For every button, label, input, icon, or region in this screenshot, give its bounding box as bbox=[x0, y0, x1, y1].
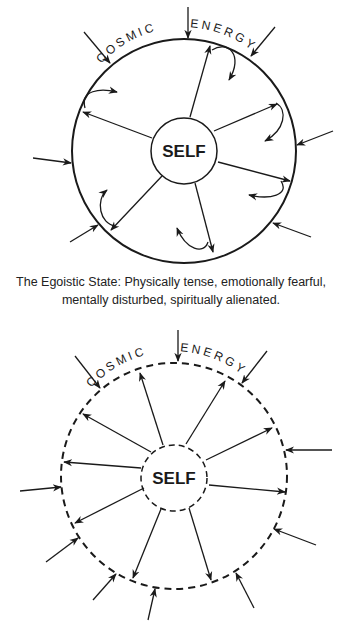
open-state-diagram: COSMIC ENERGY SELF bbox=[20, 330, 332, 620]
self-label: SELF bbox=[162, 142, 205, 161]
cosmic-label: COSMIC bbox=[93, 20, 158, 66]
diagram-canvas: COSMIC ENERGY SELF bbox=[0, 0, 342, 632]
self-label: SELF bbox=[152, 469, 195, 488]
energy-label: ENERGY bbox=[190, 16, 260, 53]
energy-label: ENERGY bbox=[180, 340, 250, 377]
egoistic-state-diagram: COSMIC ENERGY SELF bbox=[33, 7, 333, 263]
cosmic-label: COSMIC bbox=[83, 344, 148, 390]
egoistic-state-caption: The Egoistic State: Physically tense, em… bbox=[0, 273, 342, 309]
caption-line-1: The Egoistic State: Physically tense, em… bbox=[0, 273, 342, 291]
caption-line-2: mentally disturbed, spiritually alienate… bbox=[0, 291, 342, 309]
incoming-energy-arrows bbox=[33, 7, 333, 242]
